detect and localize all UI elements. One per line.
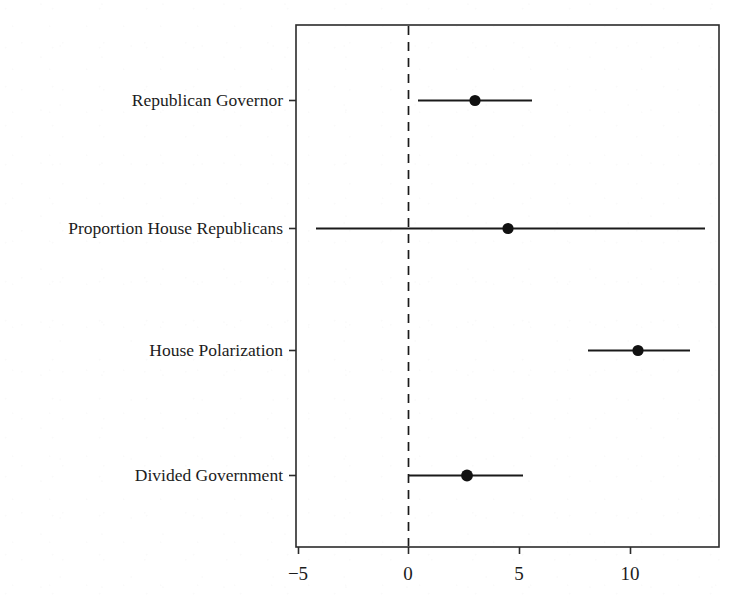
figure-background [0, 0, 749, 606]
x-axis-label-0: 0 [403, 563, 413, 584]
y-axis-label-proportion-house-republicans: Proportion House Republicans [68, 218, 283, 238]
x-axis-label-minus5: −5 [288, 563, 308, 584]
point-estimate-dot [502, 223, 513, 234]
y-axis-label-house-polarization: House Polarization [149, 340, 283, 360]
point-estimate-dot [632, 345, 643, 356]
y-axis-label-republican-governor: Republican Governor [132, 90, 283, 110]
x-axis-label-5: 5 [514, 563, 524, 584]
y-axis-label-divided-government: Divided Government [135, 465, 283, 485]
point-estimate-dot [461, 470, 473, 482]
x-axis-label-10: 10 [621, 563, 640, 584]
coefficient-plot-svg: Republican Governor Proportion House Rep… [0, 0, 749, 606]
point-estimate-dot [469, 95, 480, 106]
coefficient-plot-figure: Republican Governor Proportion House Rep… [0, 0, 749, 606]
